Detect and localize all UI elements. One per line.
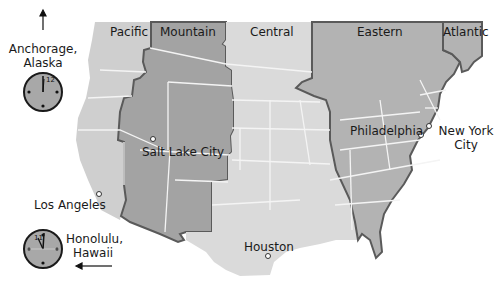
zone-label-atlantic: Atlantic — [443, 25, 489, 39]
city-label-philadelphia: Philadelphia — [350, 124, 423, 138]
zone-label-eastern: Eastern — [357, 25, 403, 39]
inset-label-hawaii: Honolulu, Hawaii — [66, 232, 120, 260]
zone-label-pacific: Pacific — [110, 25, 148, 39]
arrow-up-icon — [40, 10, 46, 30]
new-york-line1: New York — [436, 124, 496, 138]
alaska-line2: Alaska — [0, 56, 86, 70]
svg-text:12: 12 — [46, 76, 55, 84]
alaska-line1: Anchorage, — [0, 42, 86, 56]
city-label-new-york: New York City — [436, 124, 496, 152]
alaska-clock-icon: 12 — [24, 73, 62, 111]
arrow-left-icon — [76, 263, 112, 269]
zone-label-mountain: Mountain — [160, 25, 216, 39]
new-york-line2: City — [436, 138, 496, 152]
city-label-salt-lake-city: Salt Lake City — [142, 145, 224, 159]
inset-label-alaska: Anchorage, Alaska — [0, 42, 86, 70]
hawaii-line2: Hawaii — [66, 246, 120, 260]
hawaii-line1: Honolulu, — [66, 232, 120, 246]
svg-text:11: 11 — [34, 234, 43, 242]
city-label-houston: Houston — [244, 240, 294, 254]
city-label-los-angeles: Los Angeles — [34, 198, 106, 212]
zone-label-central: Central — [250, 25, 294, 39]
hawaii-clock-icon: 11 — [24, 230, 62, 268]
